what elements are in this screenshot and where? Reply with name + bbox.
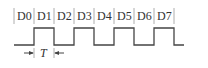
left-arrow-head-icon (29, 51, 34, 55)
period-indicator: T (24, 46, 64, 60)
period-label: T (40, 46, 48, 60)
timing-diagram: D0D1D2D3D4D5D6D7 T (0, 0, 208, 68)
bit-label: D1 (37, 9, 52, 23)
bit-label: D7 (157, 9, 172, 23)
bit-label: D6 (137, 9, 152, 23)
bit-label: D5 (117, 9, 132, 23)
right-arrow-head-icon (54, 51, 59, 55)
square-waveform (14, 28, 184, 45)
bit-label: D0 (17, 9, 32, 23)
bit-label: D3 (77, 9, 92, 23)
bit-label: D4 (97, 9, 112, 23)
bit-label: D2 (57, 9, 72, 23)
